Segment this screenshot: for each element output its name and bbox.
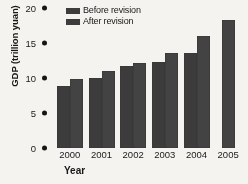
bar-group bbox=[57, 8, 83, 148]
bar-before-revision bbox=[184, 53, 197, 148]
y-axis-tick-dot bbox=[42, 111, 47, 116]
bar-before-revision bbox=[57, 86, 70, 148]
bar-after-revision bbox=[133, 63, 146, 148]
gdp-bar-chart: GDP (trillion yuan) 05101520 Before revi… bbox=[0, 0, 248, 184]
bar-before-revision bbox=[120, 66, 133, 148]
x-axis-tick-label: 2004 bbox=[181, 149, 213, 160]
bar-group bbox=[120, 8, 146, 148]
x-axis-tick-label: 2001 bbox=[86, 149, 118, 160]
x-axis-tick-label: 2003 bbox=[149, 149, 181, 160]
y-axis-tick-label: 5 bbox=[31, 108, 36, 119]
x-axis-tick-label: 2005 bbox=[212, 149, 244, 160]
bar-group bbox=[89, 8, 115, 148]
x-axis-tick-label: 2002 bbox=[117, 149, 149, 160]
y-axis-tick-label: 20 bbox=[25, 3, 36, 14]
y-axis-tick-dot bbox=[42, 6, 47, 11]
y-axis-tick: 0 bbox=[42, 142, 50, 154]
bar-after-revision bbox=[197, 36, 210, 148]
bar-after-revision bbox=[165, 53, 178, 148]
bar-group bbox=[184, 8, 210, 148]
bar-group bbox=[152, 8, 178, 148]
bar-after-revision bbox=[102, 71, 115, 148]
y-axis-tick: 5 bbox=[42, 107, 50, 119]
y-axis-tick: 20 bbox=[42, 2, 50, 14]
plot-area bbox=[54, 8, 244, 148]
y-axis-tick-label: 15 bbox=[25, 38, 36, 49]
y-axis-tick-dot bbox=[42, 76, 47, 81]
y-axis-tick-label: 10 bbox=[25, 73, 36, 84]
x-axis-ticks: 200020012002200320042005 bbox=[54, 149, 244, 163]
bar-group bbox=[222, 8, 235, 148]
x-axis-title: Year bbox=[54, 165, 244, 176]
y-axis-title: GDP (trillion yuan) bbox=[9, 0, 25, 111]
bar-before-revision bbox=[89, 78, 102, 148]
y-axis-tick: 10 bbox=[42, 72, 50, 84]
y-axis-tick: 15 bbox=[42, 37, 50, 49]
y-axis-tick-dot bbox=[42, 146, 47, 151]
y-axis-tick-label: 0 bbox=[31, 143, 36, 154]
x-axis-tick-label: 2000 bbox=[54, 149, 86, 160]
y-axis-tick-dot bbox=[42, 41, 47, 46]
bar-after-revision bbox=[70, 79, 83, 148]
bar-before-revision bbox=[152, 62, 165, 148]
bar-after-revision bbox=[222, 20, 235, 148]
